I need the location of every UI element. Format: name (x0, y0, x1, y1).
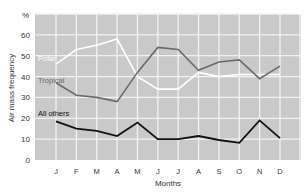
y-axis-label: Air mass frequency (7, 54, 16, 122)
series-label-all-others: All others (38, 109, 70, 118)
series-label-polar: Polar (38, 54, 56, 63)
x-tick-label: A (196, 167, 201, 176)
y-axis-ticks: 0102030405060 (21, 31, 30, 165)
y-tick-label: 30 (21, 93, 30, 102)
x-axis-label: Months (155, 179, 181, 188)
y-tick-label: 60 (21, 31, 30, 40)
x-tick-label: M (134, 167, 140, 176)
plot-area (35, 14, 301, 160)
x-tick-label: N (257, 167, 262, 176)
y-tick-label: 50 (21, 52, 30, 61)
y-tick-label: 40 (21, 73, 30, 82)
x-tick-label: F (74, 167, 79, 176)
x-tick-label: J (156, 167, 160, 176)
y-axis-unit: % (22, 11, 29, 20)
x-tick-label: O (236, 167, 242, 176)
x-tick-label: S (216, 167, 221, 176)
x-tick-label: J (54, 167, 58, 176)
series-label-tropical: Tropical (38, 76, 65, 85)
x-tick-label: J (176, 167, 180, 176)
x-tick-label: M (94, 167, 100, 176)
x-tick-label: D (277, 167, 283, 176)
y-tick-label: 0 (26, 156, 31, 165)
x-axis-ticks: JFMAMJJASOND (54, 167, 283, 176)
air-mass-frequency-chart: 0102030405060 JFMAMJJASOND % Air mass fr… (0, 0, 306, 196)
y-tick-label: 10 (21, 135, 30, 144)
x-tick-label: A (115, 167, 120, 176)
y-tick-label: 20 (21, 114, 30, 123)
